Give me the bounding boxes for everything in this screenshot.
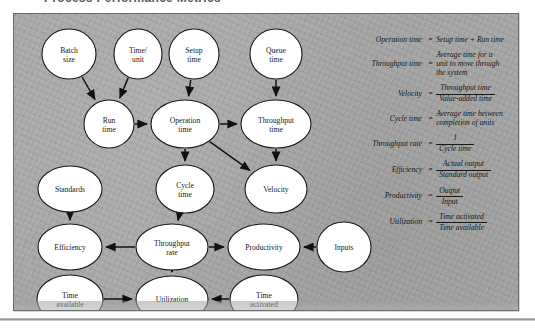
node-label-line2: available — [56, 300, 84, 309]
fraction-numerator: Time activated — [436, 213, 487, 222]
equation-lhs: Efficiency — [334, 166, 425, 175]
node-label-line2: time — [178, 125, 192, 134]
node-label: Batch — [60, 46, 78, 55]
node-label: Run — [103, 116, 116, 125]
equation-rhs: Setup time + Run time — [436, 36, 514, 45]
process-performance-metrics-panel: BatchsizeTime/unitSetuptimeQueuetimeRunt… — [13, 13, 519, 311]
node-label-line2: activated — [250, 300, 278, 309]
equation-lhs: Productivity — [334, 192, 425, 201]
equation-list: Operation time=Setup time + Run timeThro… — [334, 36, 514, 239]
node-time_unit[interactable]: Time/unit — [114, 29, 162, 79]
equation-lhs: Throughput rate — [334, 140, 425, 149]
node-label: Setup — [185, 46, 203, 55]
fraction: Time activatedTime available — [436, 213, 487, 233]
node-label-line2: time — [269, 125, 283, 134]
node-label-line2: time — [102, 125, 116, 134]
node-label: Time — [62, 291, 78, 300]
node-label: Utilization — [156, 295, 189, 304]
equation-rhs: Time activatedTime available — [436, 213, 514, 233]
node-label-line2: time — [269, 55, 283, 64]
equation-rhs: Average time betweencompletion of units — [436, 110, 514, 128]
node-label: Productivity — [245, 243, 283, 252]
fraction-numerator: Output — [436, 187, 463, 196]
equation-throughput-rate: Throughput rate=1Cycle time — [334, 134, 514, 154]
node-standards[interactable]: Standards — [38, 166, 102, 212]
fraction-numerator: Throughput time — [436, 84, 495, 93]
node-label: Time/ — [129, 46, 148, 55]
equation-equals-sign: = — [425, 115, 436, 124]
equation-operation-time: Operation time=Setup time + Run time — [334, 36, 514, 45]
equation-rhs: Throughput timeValue-added time — [436, 84, 514, 104]
node-label-line2: time — [187, 55, 201, 64]
edge-operation_time-to-velocity — [210, 142, 250, 171]
node-label-line2: rate — [166, 248, 178, 257]
equation-equals-sign: = — [425, 90, 436, 99]
node-shape — [136, 276, 208, 311]
node-label: Standards — [55, 185, 85, 194]
node-utilization[interactable]: Utilization — [136, 276, 208, 311]
node-label: Throughput — [154, 239, 191, 248]
equation-lhs: Utilization — [334, 218, 425, 227]
node-label-line2: size — [63, 55, 75, 64]
equation-lhs: Cycle time — [334, 115, 425, 124]
node-velocity[interactable]: Velocity — [245, 165, 307, 213]
fraction-numerator: Actual output — [436, 160, 491, 169]
node-label: Inputs — [335, 243, 354, 252]
equation-utilization: Utilization=Time activatedTime available — [334, 213, 514, 233]
equation-cycle-time: Cycle time=Average time betweencompletio… — [334, 110, 514, 128]
equation-velocity: Velocity=Throughput timeValue-added time — [334, 84, 514, 104]
page-bottom-edge — [0, 318, 535, 321]
node-layer: BatchsizeTime/unitSetuptimeQueuetimeRunt… — [37, 29, 371, 311]
fraction-denominator: Standard output — [436, 170, 491, 180]
node-queue_time[interactable]: Queuetime — [250, 29, 302, 79]
fraction-numerator: 1 — [436, 134, 474, 143]
edge-cycle_time-to-throughput_rate — [178, 214, 180, 221]
node-time_activated[interactable]: Timeactivated — [230, 275, 298, 311]
page-title: Process Performance Metrics — [44, 0, 221, 5]
fraction-denominator: Input — [436, 196, 463, 206]
fraction-denominator: Value-added time — [436, 94, 495, 104]
fraction: Actual outputStandard output — [436, 160, 491, 180]
equation-rhs: Actual outputStandard output — [436, 160, 514, 180]
node-throughput_rate[interactable]: Throughputrate — [136, 224, 208, 270]
fraction: Throughput timeValue-added time — [436, 84, 495, 104]
node-productivity[interactable]: Productivity — [228, 224, 300, 270]
node-label: Efficiency — [54, 243, 86, 252]
equation-throughput-time: Throughput time=Average time for aunit t… — [334, 51, 514, 78]
fraction-denominator: Time available — [436, 222, 487, 232]
equation-equals-sign: = — [425, 36, 436, 45]
node-label: Time — [256, 291, 272, 300]
equation-rhs-line: the system — [436, 69, 514, 78]
node-label: Queue — [266, 46, 286, 55]
fraction: 1Cycle time — [436, 134, 474, 154]
equation-lhs: Throughput time — [334, 60, 425, 69]
node-label: Throughput — [258, 116, 295, 125]
equation-rhs: Average time for aunit to move throughth… — [436, 51, 514, 78]
equation-productivity: Productivity=OutputInput — [334, 187, 514, 207]
equation-rhs: 1Cycle time — [436, 134, 514, 154]
equation-rhs-line: Setup time + Run time — [436, 36, 514, 45]
node-run_time[interactable]: Runtime — [84, 100, 134, 148]
edge-batch_size-to-run_time — [82, 77, 95, 100]
node-operation_time[interactable]: Operationtime — [151, 100, 219, 148]
fraction-denominator: Cycle time — [436, 144, 474, 154]
node-label: Cycle — [176, 181, 194, 190]
equation-lhs: Velocity — [334, 90, 425, 99]
equation-equals-sign: = — [425, 192, 436, 201]
equation-lhs: Operation time — [334, 36, 425, 45]
equation-rhs: OutputInput — [436, 187, 514, 207]
node-label-line2: time — [178, 190, 192, 199]
node-efficiency[interactable]: Efficiency — [38, 224, 102, 270]
node-batch_size[interactable]: Batchsize — [42, 29, 96, 79]
fraction: OutputInput — [436, 187, 463, 207]
equation-rhs-line: completion of units — [436, 119, 514, 128]
equation-equals-sign: = — [425, 140, 436, 149]
equation-equals-sign: = — [425, 60, 436, 69]
node-throughput_time[interactable]: Throughputtime — [241, 100, 311, 148]
node-label: Operation — [170, 116, 201, 125]
equation-equals-sign: = — [425, 218, 436, 227]
node-time_available[interactable]: Timeavailable — [37, 275, 103, 311]
node-cycle_time[interactable]: Cycletime — [156, 165, 214, 213]
edge-time_unit-to-run_time — [120, 78, 128, 98]
node-setup_time[interactable]: Setuptime — [169, 29, 219, 79]
